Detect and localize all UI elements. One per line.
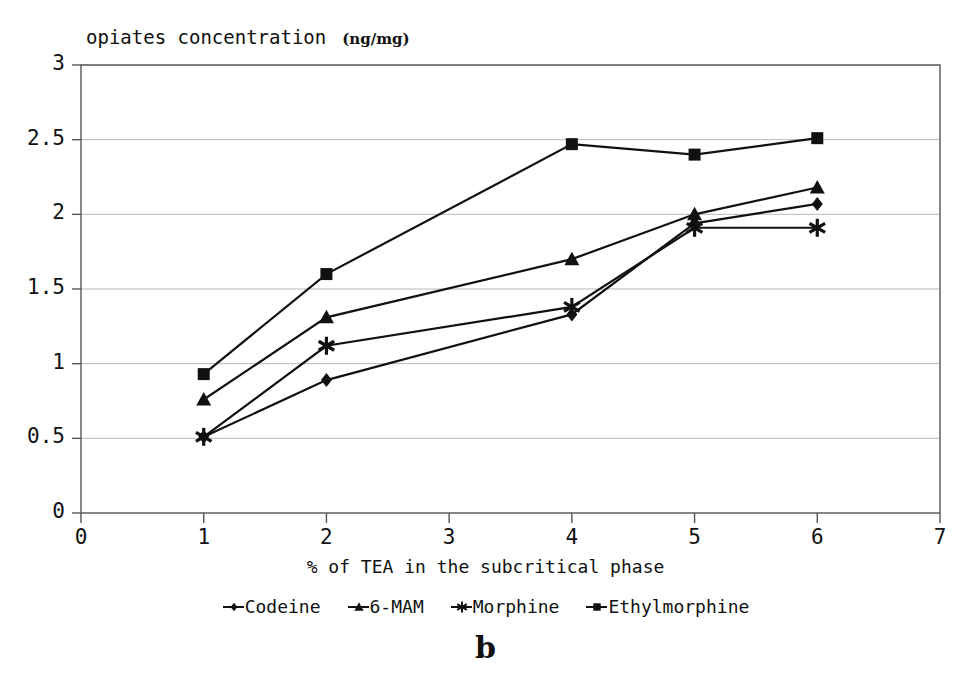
data-point-6-mam-x6 [810, 180, 825, 194]
x-axis-tick-label: 2 [306, 525, 346, 549]
square-marker [594, 603, 601, 610]
x-axis-tick-label: 5 [675, 525, 715, 549]
diamond-marker [812, 197, 823, 211]
data-point-ethylmorphine-x1 [198, 368, 210, 380]
data-point-ethylmorphine-x5 [689, 149, 701, 161]
diamond-marker [321, 373, 332, 387]
series-line [204, 228, 818, 437]
square-marker [689, 149, 701, 161]
legend-label: Morphine [473, 598, 560, 616]
y-axis-tick-label: 0.5 [5, 424, 65, 448]
y-axis-tick-label: 3 [5, 51, 65, 75]
data-point-ethylmorphine-x6 [811, 132, 823, 144]
data-point-ethylmorphine-x2 [320, 268, 332, 280]
legend-label: Codeine [245, 598, 321, 616]
data-point-6-mam-x1 [196, 392, 211, 406]
x-axis-tick-label: 0 [61, 525, 101, 549]
data-point-ethylmorphine-x4 [566, 138, 578, 150]
x-axis-tick-label: 7 [920, 525, 960, 549]
x-axis-title: % of TEA in the subcritical phase [0, 556, 971, 577]
figure-panel-b: opiates concentration(ng/mg) % of TEA in… [0, 0, 971, 684]
x-axis-tick-label: 6 [797, 525, 837, 549]
y-axis-tick-label: 1 [5, 350, 65, 374]
legend-item-6-mam[interactable]: 6-MAM [347, 598, 424, 616]
legend-item-ethylmorphine[interactable]: Ethylmorphine [585, 598, 749, 616]
square-marker [811, 132, 823, 144]
marker-square [594, 603, 601, 610]
legend-item-codeine[interactable]: Codeine [222, 598, 321, 616]
data-point-codeine-x2 [321, 373, 332, 387]
series-codeine [198, 197, 823, 444]
legend-marker-triangle-icon [347, 598, 369, 616]
series-line [204, 204, 818, 437]
square-marker [198, 368, 210, 380]
legend-label: Ethylmorphine [608, 598, 749, 616]
y-axis-tick-label: 2 [5, 200, 65, 224]
series-morphine [196, 219, 825, 446]
legend-marker-diamond-icon [222, 598, 244, 616]
legend-item-morphine[interactable]: Morphine [450, 598, 560, 616]
chart-legend: Codeine6-MAMMorphineEthylmorphine [0, 598, 971, 616]
triangle-marker [810, 180, 825, 194]
legend-marker-asterisk-icon [450, 598, 472, 616]
legend-label: 6-MAM [370, 598, 424, 616]
panel-caption: b [0, 630, 971, 665]
legend-marker-square-icon [585, 598, 607, 616]
line-chart-plot [0, 0, 971, 684]
y-axis-tick-label: 1.5 [5, 275, 65, 299]
diamond-marker [230, 603, 237, 612]
x-axis-tick-label: 3 [429, 525, 469, 549]
square-marker [566, 138, 578, 150]
x-axis-tick-label: 1 [184, 525, 224, 549]
triangle-marker [196, 392, 211, 406]
data-point-codeine-x6 [812, 197, 823, 211]
series-ethylmorphine [198, 132, 824, 380]
marker-diamond [230, 603, 237, 612]
y-axis-tick-label: 0 [5, 499, 65, 523]
x-axis-tick-label: 4 [552, 525, 592, 549]
square-marker [320, 268, 332, 280]
y-axis-tick-label: 2.5 [5, 126, 65, 150]
